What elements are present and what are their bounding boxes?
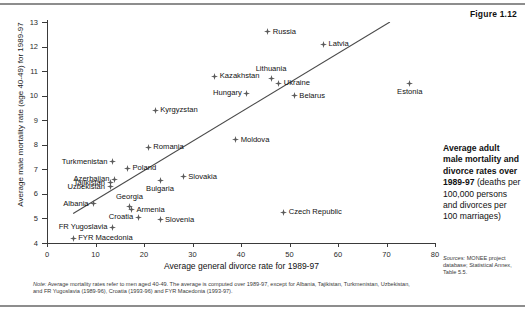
data-point-marker [157,216,164,223]
data-point-label: Latvia [328,40,348,48]
note-label: Note: [33,281,46,287]
data-point-label: Hungary [213,89,242,97]
data-point-marker [232,136,239,143]
bottom-rule [0,305,525,307]
figure-note: Note: Average mortality rates refer to m… [33,281,418,296]
x-tick-label: 70 [377,250,397,259]
data-point-marker [124,165,131,172]
data-point-marker [109,158,116,165]
data-point-marker [320,41,327,48]
data-point-label: Belarus [299,92,325,100]
data-point-label: Albania [63,200,88,208]
data-point-marker [243,90,250,97]
data-point-marker [275,80,282,87]
data-point-marker [264,28,271,35]
data-point-label: Slovenia [165,216,194,224]
data-point-marker [280,209,287,216]
data-point-label: Uzbekistan [67,183,105,191]
data-point-label: Bulgaria [146,185,174,193]
data-point-label: Poland [133,164,157,172]
figure-sources: Sources: MONEE project database; Statist… [443,255,523,276]
data-point-marker [180,173,187,180]
data-point-marker [145,144,152,151]
x-tick [144,243,145,247]
x-tick [96,243,97,247]
data-point-marker [268,75,275,82]
x-tick-label: 50 [280,250,300,259]
data-point-label: Croatia [109,213,133,221]
data-point-label: Russia [273,28,296,36]
x-tick [387,243,388,247]
data-point-label: Georgia [116,193,143,201]
data-point-label: Moldova [241,136,270,144]
data-point-label: Slovakia [188,173,217,181]
figure-page: Figure 1.12 45678910111213 0102030405060… [0,0,525,309]
top-rule [0,3,525,5]
data-point-label: Kyrgyzstan [160,106,198,114]
data-point-label: Ukraine [284,79,310,87]
data-point-label: Kazakhstan [220,72,260,80]
note-text: Average mortality rates refer to men age… [33,281,410,294]
x-tick [241,243,242,247]
data-point-label: Lithuania [256,65,287,73]
figure-caption: Average adult male mortality and divorce… [443,143,521,223]
data-point-marker [109,224,116,231]
data-point-marker [406,80,413,87]
x-tick [435,243,436,247]
x-tick [193,243,194,247]
figure-number: Figure 1.12 [470,9,517,19]
x-tick-label: 20 [134,250,154,259]
x-tick-label: 80 [425,250,445,259]
data-point-marker [152,107,159,114]
data-point-label: FR Yugoslavia [59,223,108,231]
x-tick-label: 30 [183,250,203,259]
data-point-label: Turkmenistan [62,158,108,166]
data-point-marker [211,73,218,80]
data-point-marker [157,177,164,184]
data-point-label: Romania [153,143,183,151]
data-point-label: Armenia [136,206,164,214]
x-tick [47,243,48,247]
x-axis-title: Average general divorce rate for 1989-97 [47,261,436,271]
sources-label: Sources: [443,255,465,261]
y-axis-title: Average male mortality rate (age 40-49) … [16,9,25,221]
data-point-marker [135,214,142,221]
x-tick-label: 10 [86,250,106,259]
data-point-marker [291,92,298,99]
data-point-marker [90,200,97,207]
x-tick [290,243,291,247]
x-tick-label: 0 [37,250,57,259]
data-point-label: Estonia [397,88,422,96]
y-tick-label: 4 [22,239,38,248]
data-point-label: FYR Macedonia [78,234,132,242]
data-point-marker [70,235,77,242]
x-tick-label: 40 [231,250,251,259]
data-point-label: Czech Republic [289,208,342,216]
x-tick [338,243,339,247]
x-tick-label: 60 [328,250,348,259]
data-point-marker [107,183,114,190]
scatter-points-layer: RussiaLatviaEstoniaLithuaniaUkraineKazak… [47,22,435,243]
